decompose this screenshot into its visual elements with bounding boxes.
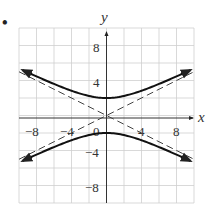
y-tick-label: −4 — [85, 145, 99, 160]
x-tick-label: 8 — [173, 124, 180, 139]
y-tick-label: 8 — [93, 40, 100, 55]
y-tick-label: −8 — [85, 180, 99, 195]
problem-bullet: • — [2, 14, 8, 31]
x-tick-label: −4 — [60, 124, 74, 139]
x-tick-labels: −8 −4 0 4 8 — [25, 124, 180, 139]
x-tick-label: 0 — [93, 124, 100, 139]
hyperbola-graph: • x y −8 −4 0 4 8 8 4 −4 −8 — [0, 0, 216, 214]
y-tick-label: 4 — [93, 75, 100, 90]
x-tick-label: −8 — [25, 124, 39, 139]
x-axis-label: x — [197, 109, 205, 125]
y-axis-label: y — [99, 9, 108, 25]
